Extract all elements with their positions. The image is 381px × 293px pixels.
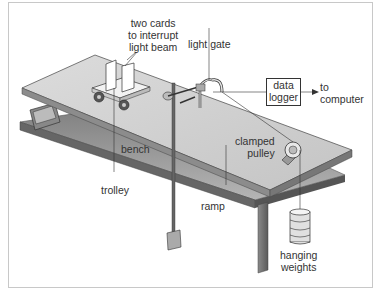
cards-label: two cards to interrupt light beam (128, 17, 178, 53)
hanging-weights-label: hanging weights (280, 249, 317, 273)
data-logger-box: data logger (266, 78, 301, 106)
arrow-to-computer-icon (312, 89, 319, 95)
light-gate-label: light gate (188, 38, 231, 50)
bench-label: bench (121, 143, 150, 155)
trolley-label: trolley (101, 184, 129, 196)
hanging-weights (290, 209, 310, 244)
to-computer-label: to computer (320, 81, 364, 105)
ramp-label: ramp (201, 200, 225, 212)
clamped-pulley-label: clamped pulley (235, 135, 275, 159)
